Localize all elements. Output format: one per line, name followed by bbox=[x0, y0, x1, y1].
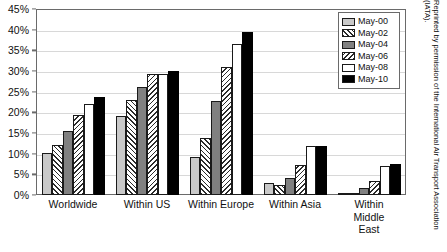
legend-swatch-icon bbox=[342, 52, 355, 60]
legend-item-label: May-04 bbox=[358, 40, 388, 49]
y-axis-tick-label: 20% bbox=[8, 107, 29, 117]
legend-item: May-04 bbox=[342, 39, 396, 51]
chart-figure: 0%5%10%15%20%25%30%35%40%45% WorldwideWi… bbox=[0, 0, 447, 252]
legend-swatch-icon bbox=[342, 75, 355, 83]
legend-swatch-icon bbox=[342, 41, 355, 49]
chart-legend: May-00May-02May-04May-06May-08May-10 bbox=[338, 12, 400, 89]
gridline bbox=[37, 93, 405, 94]
gridline bbox=[37, 155, 405, 156]
gridline bbox=[37, 175, 405, 176]
legend-swatch-icon bbox=[342, 29, 355, 37]
gridline bbox=[37, 134, 405, 135]
legend-item: May-02 bbox=[342, 28, 396, 40]
legend-item: May-06 bbox=[342, 51, 396, 63]
y-axis-tick-label: 35% bbox=[8, 45, 29, 55]
x-axis-tick-label: Worldwide bbox=[49, 198, 98, 211]
x-axis-tick-label: Within Middle East bbox=[351, 198, 388, 236]
y-axis: 0%5%10%15%20%25%30%35%40%45% bbox=[0, 0, 36, 196]
x-axis-tick-label: Within US bbox=[124, 198, 171, 211]
x-axis-tick-label: Within Asia bbox=[269, 198, 321, 211]
y-axis-tick-label: 45% bbox=[8, 4, 29, 14]
x-axis-tick-label: Within Europe bbox=[188, 198, 254, 211]
y-axis-tick-label: 5% bbox=[14, 169, 29, 179]
y-axis-tick-label: 0% bbox=[14, 190, 29, 200]
y-axis-tick-label: 25% bbox=[8, 87, 29, 97]
x-axis: WorldwideWithin USWithin EuropeWithin As… bbox=[36, 198, 406, 238]
legend-item: May-10 bbox=[342, 74, 396, 86]
legend-swatch-icon bbox=[342, 18, 355, 26]
y-axis-tick-label: 10% bbox=[8, 149, 29, 159]
legend-item: May-00 bbox=[342, 16, 396, 28]
legend-item-label: May-02 bbox=[358, 29, 388, 38]
legend-item-label: May-06 bbox=[358, 52, 388, 61]
legend-swatch-icon bbox=[342, 64, 355, 72]
legend-item-label: May-10 bbox=[358, 75, 388, 84]
gridline bbox=[37, 113, 405, 114]
legend-item-label: May-08 bbox=[358, 63, 388, 72]
y-axis-tick-label: 40% bbox=[8, 25, 29, 35]
y-axis-tick-label: 30% bbox=[8, 66, 29, 76]
credit-note: Reprinted by permission of the Internati… bbox=[409, 0, 443, 252]
legend-item-label: May-00 bbox=[358, 17, 388, 26]
legend-item: May-08 bbox=[342, 62, 396, 74]
y-axis-tick-label: 15% bbox=[8, 128, 29, 138]
